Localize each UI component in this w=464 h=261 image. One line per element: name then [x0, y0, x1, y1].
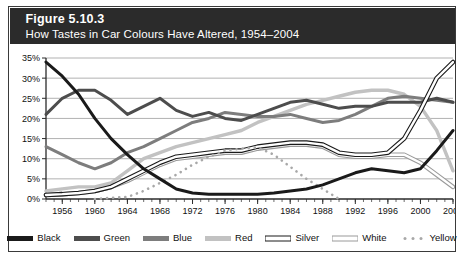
line-chart: 0%5%10%15%20%25%30%35%195619601964196819… — [10, 44, 455, 222]
x-axis-tick-label: 2004 — [442, 206, 454, 216]
legend-label-red: Red — [235, 233, 252, 243]
y-axis-tick-label: 5% — [26, 174, 39, 184]
plot-area: 0%5%10%15%20%25%30%35%195619601964196819… — [10, 44, 455, 222]
legend-label-white: White — [362, 233, 386, 243]
y-axis-tick-label: 0% — [26, 194, 39, 204]
figure-container: Figure 5.10.3 How Tastes in Car Colours … — [0, 0, 464, 261]
legend-item-red[interactable]: Red — [205, 233, 252, 243]
x-axis-tick-label: 1960 — [84, 206, 104, 216]
x-axis-tick-label: 1992 — [345, 206, 365, 216]
legend-label-silver: Silver — [295, 233, 319, 243]
chart-legend: BlackGreenBlueRedSilverWhiteYellow — [10, 228, 455, 248]
y-axis-tick-label: 10% — [21, 154, 39, 164]
x-axis-tick-label: 1972 — [182, 206, 202, 216]
legend-label-blue: Blue — [173, 233, 192, 243]
legend-label-green: Green — [104, 233, 130, 243]
legend-item-black[interactable]: Black — [7, 233, 60, 243]
legend-label-yellow: Yellow — [430, 233, 457, 243]
x-axis-tick-label: 1976 — [215, 206, 235, 216]
legend-swatch-red — [205, 234, 231, 243]
y-axis-tick-label: 15% — [21, 134, 39, 144]
y-axis-tick-label: 20% — [21, 114, 39, 124]
x-axis-tick-label: 1956 — [52, 206, 72, 216]
legend-swatch-white — [332, 234, 358, 243]
swatch-dot — [411, 237, 414, 240]
legend-label-black: Black — [37, 233, 60, 243]
x-axis-tick-label: 1968 — [149, 206, 169, 216]
x-axis-tick-label: 1996 — [377, 206, 397, 216]
swatch-line — [265, 236, 291, 241]
plot-background — [46, 58, 453, 199]
swatch-dot — [419, 237, 422, 240]
y-axis-tick-label: 25% — [21, 94, 39, 104]
x-axis-tick-label: 1980 — [247, 206, 267, 216]
y-axis-tick-label: 30% — [21, 74, 39, 84]
legend-swatch-green — [74, 234, 100, 243]
figure-header: Figure 5.10.3 How Tastes in Car Colours … — [10, 8, 455, 44]
x-axis-tick-label: 1984 — [280, 206, 300, 216]
x-axis-tick-label: 1988 — [312, 206, 332, 216]
legend-item-yellow[interactable]: Yellow — [400, 233, 457, 243]
legend-swatch-yellow — [400, 234, 426, 243]
figure-number: Figure 5.10.3 — [26, 12, 455, 27]
legend-swatch-silver — [265, 234, 291, 243]
figure-subtitle: How Tastes in Car Colours Have Altered, … — [26, 27, 455, 42]
y-axis-tick-label: 35% — [21, 53, 39, 63]
legend-item-blue[interactable]: Blue — [143, 233, 192, 243]
x-axis-tick-label: 2000 — [410, 206, 430, 216]
swatch-line — [332, 236, 358, 241]
legend-item-silver[interactable]: Silver — [265, 233, 319, 243]
legend-item-green[interactable]: Green — [74, 233, 130, 243]
swatch-dot — [403, 237, 406, 240]
x-axis-tick-label: 1964 — [117, 206, 137, 216]
legend-swatch-blue — [143, 234, 169, 243]
legend-swatch-black — [7, 234, 33, 243]
legend-item-white[interactable]: White — [332, 233, 386, 243]
